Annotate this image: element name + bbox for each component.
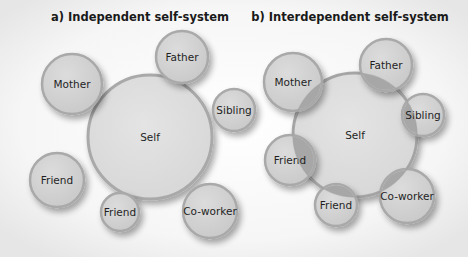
- panel-title: b) Interdependent self-system: [251, 10, 449, 24]
- node-friend: Friend: [315, 184, 357, 226]
- node-sibling: Sibling: [213, 89, 255, 131]
- node-friend: Friend: [265, 135, 315, 185]
- node-label: Mother: [274, 76, 312, 88]
- node-mother: Mother: [42, 54, 102, 114]
- node-co-worker: Co-worker: [183, 184, 237, 238]
- node-father: Father: [156, 31, 208, 83]
- self-label: Self: [345, 129, 365, 141]
- node-friend: Friend: [30, 153, 84, 207]
- diagram-canvas: a) Independent self-systemMotherFatherSi…: [0, 0, 468, 257]
- node-label: Friend: [274, 154, 306, 166]
- node-co-worker: Co-worker: [380, 169, 434, 223]
- node-label: Friend: [320, 199, 352, 211]
- node-label: Co-worker: [183, 205, 237, 217]
- self-label: Self: [140, 131, 160, 143]
- node-label: Friend: [104, 206, 136, 218]
- node-label: Sibling: [216, 104, 251, 116]
- node-friend: Friend: [101, 193, 139, 231]
- node-sibling: Sibling: [402, 94, 444, 136]
- node-father: Father: [360, 39, 412, 91]
- node-label: Mother: [53, 78, 91, 90]
- node-label: Sibling: [405, 109, 440, 121]
- node-label: Father: [369, 59, 403, 71]
- node-mother: Mother: [264, 53, 322, 111]
- panel-title: a) Independent self-system: [51, 10, 229, 24]
- self-system-diagram: a) Independent self-systemMotherFatherSi…: [0, 0, 468, 257]
- node-label: Friend: [41, 174, 73, 186]
- node-label: Co-worker: [380, 190, 434, 202]
- node-label: Father: [165, 51, 199, 63]
